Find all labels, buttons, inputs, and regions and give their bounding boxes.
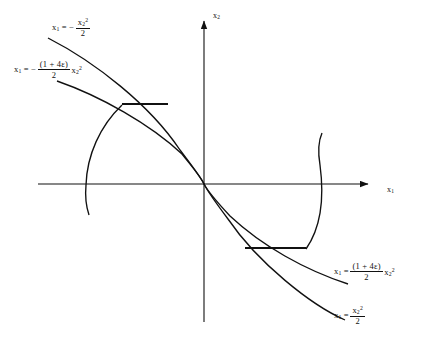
label-lower-outer-denominator: 2	[350, 317, 365, 326]
label-lower-outer-numerator: x22	[350, 305, 365, 317]
curve-upper-inner-parabola	[57, 81, 204, 184]
diagram-canvas	[0, 0, 423, 339]
label-upper-inner-denominator: 2	[38, 70, 70, 79]
curve-lower-outer-parabola	[204, 184, 345, 320]
label-upper-outer-parabola: x1 = − x22 2	[52, 17, 92, 38]
label-upper-outer-fraction: x22 2	[76, 17, 91, 38]
x-axis-label: x1	[387, 186, 394, 195]
y-axis-label: x2	[213, 12, 220, 21]
label-upper-outer-denominator: 2	[76, 29, 91, 38]
parabola-arc-diagram: x2 x1 x1 = − x22 2 x1 = − (1 + 4ε) 2 x22…	[0, 0, 423, 339]
label-upper-outer-numerator: x22	[76, 17, 91, 29]
label-lower-outer-parabola: x1 = x22 2	[334, 305, 367, 326]
label-upper-inner-lhs: x1 = −	[14, 65, 36, 75]
label-upper-inner-numerator: (1 + 4ε)	[38, 60, 70, 70]
label-upper-outer-lhs: x1 = −	[52, 23, 74, 33]
label-lower-inner-denominator: 2	[350, 272, 382, 281]
label-lower-inner-fraction: (1 + 4ε) 2	[350, 262, 382, 282]
curve-lower-inner-parabola	[204, 184, 348, 284]
label-lower-outer-fraction: x22 2	[350, 305, 365, 326]
label-lower-outer-lhs: x1 =	[334, 311, 349, 321]
left-circular-arc	[86, 105, 122, 215]
label-upper-inner-suffix: x22	[72, 65, 83, 75]
label-upper-inner-fraction: (1 + 4ε) 2	[38, 60, 70, 80]
label-upper-inner-parabola: x1 = − (1 + 4ε) 2 x22	[14, 60, 82, 80]
label-lower-inner-suffix: x22	[384, 267, 395, 277]
label-lower-inner-numerator: (1 + 4ε)	[350, 262, 382, 272]
label-lower-inner-lhs: x1 =	[334, 267, 349, 277]
right-circular-arc	[306, 133, 322, 249]
label-lower-inner-parabola: x1 = (1 + 4ε) 2 x22	[334, 262, 395, 282]
